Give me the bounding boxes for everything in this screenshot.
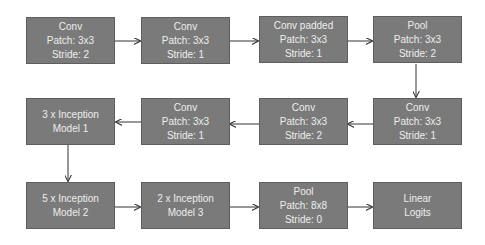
node-label: Stride: 1 bbox=[399, 129, 436, 143]
node-inception-3: 2 x Inception Model 3 bbox=[141, 182, 230, 229]
node-label: 2 x Inception bbox=[157, 192, 214, 206]
node-label: Model 3 bbox=[168, 206, 204, 220]
node-label: Patch: 3x3 bbox=[162, 34, 209, 48]
node-conv-stride1: Conv Patch: 3x3 Stride: 1 bbox=[141, 17, 230, 64]
node-label: Patch: 3x3 bbox=[394, 33, 441, 47]
node-label: Linear bbox=[404, 192, 432, 206]
node-linear-logits: Linear Logits bbox=[373, 182, 462, 229]
node-label: Stride: 1 bbox=[285, 47, 322, 61]
node-label: Patch: 3x3 bbox=[47, 34, 94, 48]
node-label: Model 2 bbox=[53, 206, 89, 220]
node-label: Patch: 3x3 bbox=[162, 115, 209, 129]
node-inception-1: 3 x Inception Model 1 bbox=[26, 98, 115, 145]
node-label: Stride: 2 bbox=[52, 48, 89, 62]
node-label: Conv padded bbox=[274, 19, 334, 33]
node-label: Stride: 0 bbox=[285, 213, 322, 227]
node-label: Model 1 bbox=[53, 122, 89, 136]
node-label: Patch: 3x3 bbox=[394, 115, 441, 129]
node-label: Pool bbox=[407, 19, 427, 33]
node-label: Patch: 3x3 bbox=[280, 115, 327, 129]
node-label: Conv bbox=[174, 20, 197, 34]
node-label: Patch: 8x8 bbox=[280, 199, 327, 213]
node-conv-padded: Conv padded Patch: 3x3 Stride: 1 bbox=[259, 16, 348, 63]
node-label: Conv bbox=[59, 20, 82, 34]
node-label: 5 x Inception bbox=[42, 192, 99, 206]
node-label: Stride: 2 bbox=[399, 47, 436, 61]
node-label: Logits bbox=[404, 206, 431, 220]
node-label: Conv bbox=[292, 101, 315, 115]
node-pool-stride2: Pool Patch: 3x3 Stride: 2 bbox=[373, 16, 462, 63]
node-conv-row2-left: Conv Patch: 3x3 Stride: 1 bbox=[141, 98, 230, 145]
node-conv-row2-mid: Conv Patch: 3x3 Stride: 2 bbox=[259, 98, 348, 145]
node-label: Stride: 1 bbox=[167, 129, 204, 143]
node-conv-row2-right: Conv Patch: 3x3 Stride: 1 bbox=[373, 98, 462, 145]
node-inception-2: 5 x Inception Model 2 bbox=[26, 182, 115, 229]
node-label: Patch: 3x3 bbox=[280, 33, 327, 47]
node-label: Pool bbox=[293, 185, 313, 199]
node-pool-8x8: Pool Patch: 8x8 Stride: 0 bbox=[259, 182, 348, 229]
node-conv-stride2: Conv Patch: 3x3 Stride: 2 bbox=[26, 17, 115, 64]
node-label: Stride: 1 bbox=[167, 48, 204, 62]
node-label: Conv bbox=[174, 101, 197, 115]
node-label: Stride: 2 bbox=[285, 129, 322, 143]
node-label: 3 x Inception bbox=[42, 108, 99, 122]
node-label: Conv bbox=[406, 101, 429, 115]
